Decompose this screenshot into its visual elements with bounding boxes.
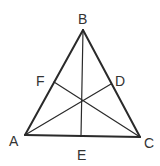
label-f: F xyxy=(36,73,45,89)
label-e: E xyxy=(77,147,86,163)
side-bc xyxy=(83,30,140,137)
label-d: D xyxy=(115,73,125,89)
label-a: A xyxy=(9,133,19,149)
label-b: B xyxy=(78,11,87,27)
label-c: C xyxy=(144,135,154,151)
triangle-diagram: B F D A C E xyxy=(0,0,160,166)
side-ac xyxy=(25,135,140,137)
median-be xyxy=(81,30,83,136)
